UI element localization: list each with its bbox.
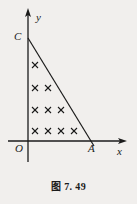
lattice-mark — [32, 107, 38, 113]
lattice-mark — [58, 107, 64, 113]
lattice-mark — [32, 62, 38, 68]
lattice-mark — [45, 107, 51, 113]
lattice-row-2 — [32, 85, 51, 91]
lattice-mark — [71, 128, 77, 134]
lattice-mark — [32, 85, 38, 91]
x-axis-label: x — [117, 146, 122, 157]
origin-label: O — [15, 143, 23, 154]
vertex-label-a: A — [88, 143, 95, 154]
triangle-hypotenuse-CA — [28, 38, 94, 146]
x-axis — [8, 138, 127, 144]
lattice-row-4 — [32, 128, 77, 134]
vertex-label-c: C — [14, 31, 21, 42]
figure-caption: 图 7. 49 — [0, 178, 137, 193]
figure-page: y x C O A 图 7. 49 — [0, 0, 137, 204]
lattice-mark — [32, 128, 38, 134]
y-axis — [25, 8, 31, 162]
lattice-mark — [45, 128, 51, 134]
y-axis-label: y — [36, 12, 41, 23]
lattice-row-3 — [32, 107, 64, 113]
lattice-row-1 — [32, 62, 38, 68]
lattice-mark — [58, 128, 64, 134]
lattice-mark — [45, 85, 51, 91]
